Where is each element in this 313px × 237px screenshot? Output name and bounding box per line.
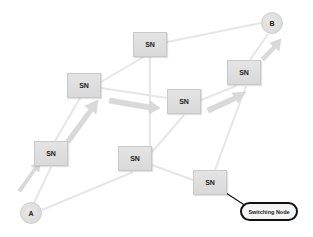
arrow-sn5-sn2-icon: [66, 100, 98, 143]
node-label: SN: [179, 98, 189, 105]
link-sn1-b: [167, 23, 261, 42]
link-sn2-sn1: [101, 56, 145, 82]
node-label: SN: [205, 179, 215, 186]
node-label: SN: [130, 155, 140, 162]
node-label: SN: [79, 82, 89, 89]
switching-node-1[interactable]: SN: [133, 32, 167, 57]
switching-node-5[interactable]: SN: [34, 141, 68, 166]
endpoint-label: A: [28, 210, 33, 217]
node-label: SN: [145, 41, 155, 48]
switching-node-4[interactable]: SN: [227, 60, 261, 85]
link-sn6-sn7: [152, 165, 193, 180]
callout-label: Switching Node: [248, 209, 289, 215]
switching-node-callout: Switching Node: [240, 202, 298, 221]
node-label: SN: [239, 69, 249, 76]
arrow-a-sn5-icon: [18, 162, 40, 192]
switching-node-6[interactable]: SN: [118, 146, 152, 171]
link-a-sn5: [34, 167, 51, 203]
node-label: SN: [46, 150, 56, 157]
arrow-sn2-sn3-icon: [109, 98, 160, 114]
switching-node-3[interactable]: SN: [167, 89, 201, 114]
endpoint-a[interactable]: A: [20, 202, 42, 224]
link-sn3-sn6: [152, 115, 184, 152]
arrow-sn4-b-icon: [261, 39, 281, 61]
endpoint-b[interactable]: B: [261, 12, 283, 34]
switching-node-7[interactable]: SN: [193, 170, 227, 195]
switching-node-2[interactable]: SN: [67, 73, 101, 98]
link-sn2-sn3: [101, 88, 167, 98]
link-a-sn6: [42, 172, 133, 210]
endpoint-label: B: [269, 20, 274, 27]
